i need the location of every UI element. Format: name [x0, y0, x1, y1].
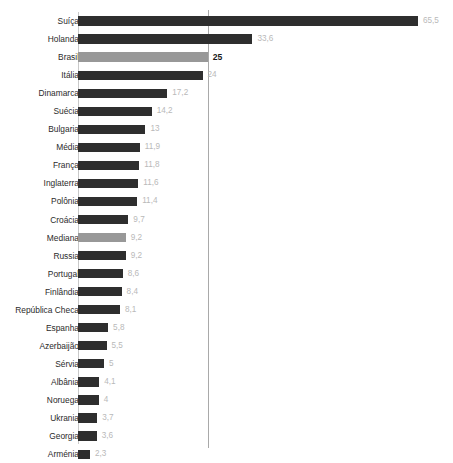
- bar: [78, 233, 126, 242]
- bar: [78, 143, 140, 152]
- bar-track: 9,2: [78, 247, 453, 265]
- bar: [78, 269, 123, 278]
- bar: [78, 395, 99, 404]
- bar: [78, 359, 104, 368]
- bar-row: Suécia14,2: [0, 102, 453, 120]
- value-label: 11,8: [139, 156, 159, 174]
- category-label: Itália: [0, 66, 79, 84]
- value-label: 11,4: [137, 192, 157, 210]
- value-label: 3,7: [97, 409, 113, 427]
- bar-row: Croácia9,7: [0, 211, 453, 229]
- bar-row: França11,8: [0, 156, 453, 174]
- bar: [78, 450, 90, 459]
- bar-track: 9,7: [78, 211, 453, 229]
- bar: [78, 287, 122, 296]
- bar-track: 11,9: [78, 138, 453, 156]
- bar-track: 33,6: [78, 30, 453, 48]
- bar-track: 11,6: [78, 174, 453, 192]
- bar-row: Noruega4: [0, 391, 453, 409]
- bar-row: Polônia11,4: [0, 192, 453, 210]
- bar: [78, 34, 252, 43]
- category-label: Albânia: [0, 373, 79, 391]
- value-label: 11,9: [140, 138, 160, 156]
- category-label: Noruega: [0, 391, 79, 409]
- bar-track: 9,2: [78, 229, 453, 247]
- bar-row: Russia9,2: [0, 247, 453, 265]
- bar: [78, 413, 97, 422]
- bar-track: 8,6: [78, 265, 453, 283]
- bar-row: República Checa8,1: [0, 301, 453, 319]
- category-label: França: [0, 156, 79, 174]
- bar-row: Georgia3,6: [0, 427, 453, 445]
- bar-row: Mediana9,2: [0, 229, 453, 247]
- bar-row: Portugal8,6: [0, 265, 453, 283]
- bar: [78, 89, 167, 98]
- bar: [78, 377, 99, 386]
- bar-row: Itália24: [0, 66, 453, 84]
- category-label: Mediana: [0, 229, 79, 247]
- value-label: 8,1: [120, 301, 136, 319]
- bar: [78, 215, 128, 224]
- value-label: 9,7: [128, 211, 144, 229]
- category-label: Arménia: [0, 445, 79, 463]
- bar-track: 4: [78, 391, 453, 409]
- value-label: 2,3: [90, 445, 106, 463]
- bar-row: Brasil25: [0, 48, 453, 66]
- bar: [78, 16, 418, 25]
- category-label: Média: [0, 138, 79, 156]
- category-label: Suécia: [0, 102, 79, 120]
- plot-area: Suíça65,5Holanda33,6Brasil25Itália24Dina…: [0, 12, 453, 448]
- category-label: Finlândia: [0, 283, 79, 301]
- bar-track: 13: [78, 120, 453, 138]
- bar: [78, 107, 152, 116]
- value-label: 11,6: [138, 174, 158, 192]
- category-label: Holanda: [0, 30, 79, 48]
- category-label: Suíça: [0, 12, 79, 30]
- value-label: 4,1: [99, 373, 115, 391]
- bar-row: Sérvia5: [0, 355, 453, 373]
- bar-row: Holanda33,6: [0, 30, 453, 48]
- bar-track: 5,5: [78, 337, 453, 355]
- category-label: Russia: [0, 247, 79, 265]
- value-label: 9,2: [126, 229, 142, 247]
- bar: [78, 125, 145, 134]
- bar: [78, 341, 107, 350]
- bar: [78, 431, 97, 440]
- bar-track: 14,2: [78, 102, 453, 120]
- bar-row: Arménia2,3: [0, 445, 453, 463]
- value-label: 9,2: [126, 247, 142, 265]
- category-label: Inglaterra: [0, 174, 79, 192]
- category-label: Georgia: [0, 427, 79, 445]
- category-label: Portugal: [0, 265, 79, 283]
- bar-track: 5: [78, 355, 453, 373]
- category-label: Brasil: [0, 48, 79, 66]
- bar-row: Dinamarca17,2: [0, 84, 453, 102]
- value-label: 65,5: [418, 12, 439, 30]
- value-label: 3,6: [97, 427, 113, 445]
- category-label: Azerbaijão: [0, 337, 79, 355]
- category-label: Dinamarca: [0, 84, 79, 102]
- value-label: 8,6: [123, 265, 139, 283]
- value-label: 25: [208, 48, 223, 66]
- bar-track: 8,1: [78, 301, 453, 319]
- value-label: 5,8: [108, 319, 124, 337]
- bar-row: Bulgaria13: [0, 120, 453, 138]
- chart-title: [0, 0, 453, 2]
- bar-track: 11,8: [78, 156, 453, 174]
- bar: [78, 197, 137, 206]
- bar-row: Ukrania3,7: [0, 409, 453, 427]
- bar-track: 3,7: [78, 409, 453, 427]
- value-label: 4: [99, 391, 109, 409]
- category-label: Sérvia: [0, 355, 79, 373]
- category-label: Espanha: [0, 319, 79, 337]
- bar: [78, 323, 108, 332]
- bar-track: 5,8: [78, 319, 453, 337]
- value-label: 5,5: [107, 337, 123, 355]
- category-label: Bulgaria: [0, 120, 79, 138]
- value-label: 8,4: [122, 283, 138, 301]
- bar-row: Média11,9: [0, 138, 453, 156]
- value-label: 5: [104, 355, 114, 373]
- bar: [78, 305, 120, 314]
- bar-row: Azerbaijão5,5: [0, 337, 453, 355]
